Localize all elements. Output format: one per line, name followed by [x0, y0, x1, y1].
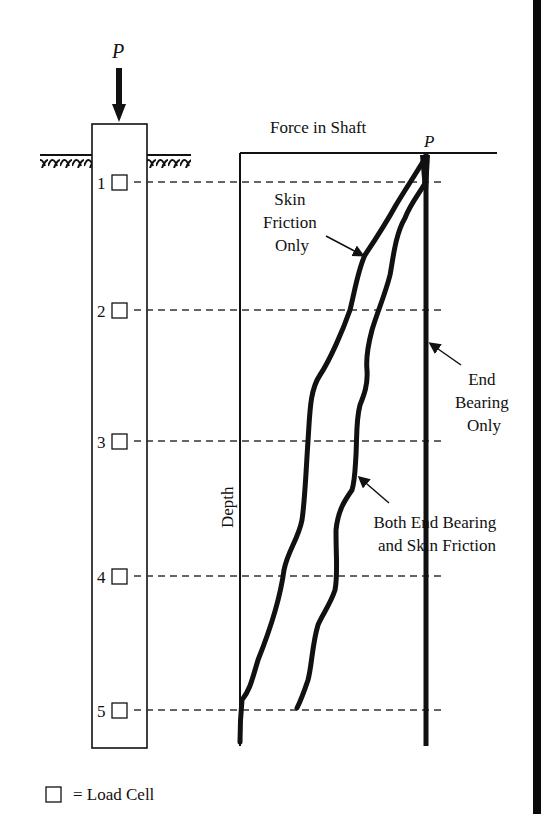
load-arrow-icon [112, 68, 126, 122]
ground-surface [40, 155, 191, 168]
load-cell-icon [112, 569, 127, 584]
depth-dashed-lines [134, 182, 441, 710]
top-load-label-p: P [423, 132, 434, 151]
graph-title: Force in Shaft [270, 118, 367, 137]
legend-text: = Load Cell [73, 785, 155, 804]
load-cell-4: 4 [97, 568, 127, 587]
end-bearing-annotation: End Bearing Only [431, 344, 513, 435]
load-label-p: P [111, 40, 124, 62]
pile-load-diagram: P 1 2 3 4 5 Force in Shaft [0, 0, 541, 814]
load-cell-icon [112, 175, 127, 190]
svg-text:1: 1 [97, 174, 106, 193]
svg-text:3: 3 [97, 433, 106, 452]
load-cell-icon [112, 703, 127, 718]
load-cell-icon [112, 303, 127, 318]
load-cell-3: 3 [97, 433, 127, 452]
svg-text:5: 5 [97, 702, 106, 721]
load-cell-5: 5 [97, 702, 127, 721]
page-edge-bar [533, 0, 541, 814]
svg-text:Skin Friction Only: Skin Friction Only [263, 190, 321, 255]
pointer-arrow-icon [431, 344, 461, 365]
both-annotation: Both End Bearing and Skin Friction [360, 478, 501, 555]
load-cell-1: 1 [97, 174, 127, 193]
depth-axis-label: Depth [218, 486, 237, 528]
pointer-arrow-icon [326, 236, 362, 255]
svg-text:2: 2 [97, 302, 106, 321]
svg-text:End Bearing Only: End Bearing Only [455, 370, 513, 435]
load-cell-legend-icon [46, 787, 61, 802]
load-cell-2: 2 [97, 302, 127, 321]
skin-friction-annotation: Skin Friction Only [263, 190, 362, 255]
svg-text:Both End Bearing and Ski: Both End Bearing and Skin Friction [373, 513, 500, 555]
pointer-arrow-icon [360, 478, 389, 503]
svg-text:4: 4 [97, 568, 106, 587]
load-cell-icon [112, 434, 127, 449]
legend: = Load Cell [46, 785, 155, 804]
